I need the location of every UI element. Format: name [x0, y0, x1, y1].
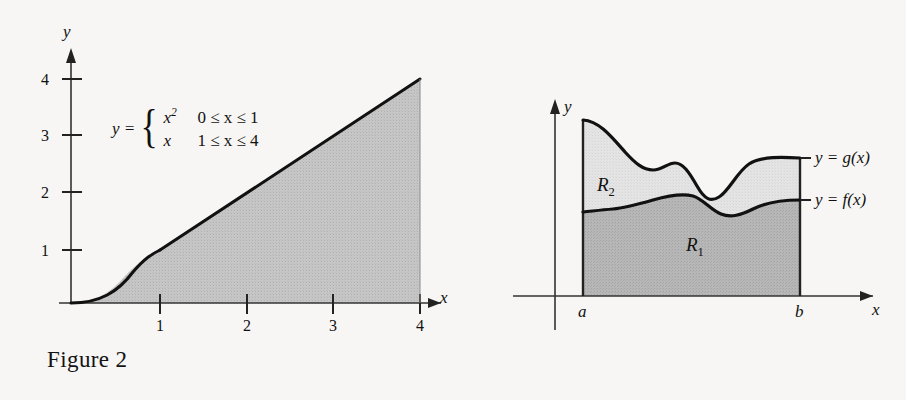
figure-2-y-tick-label-4: 4: [35, 71, 55, 89]
figure-page: y x 1 2 3 4 1 2 3 4 y = { x2 0 ≤ x ≤ 1 x…: [0, 0, 906, 400]
figure-3-region-label-r1: R1: [686, 234, 704, 260]
region-r1-subscript: 1: [698, 245, 704, 259]
figure-3-x-axis-label: x: [872, 300, 880, 320]
figure-2-panel: y x 1 2 3 4 1 2 3 4 y = { x2 0 ≤ x ≤ 1 x…: [0, 0, 453, 400]
equation-lead: y =: [112, 119, 135, 139]
figure-3-curve-label-f: y = f(x): [815, 190, 866, 210]
equation-case-row: x 1 ≤ x ≤ 4: [163, 129, 258, 152]
equation-case-domain: 1 ≤ x ≤ 4: [193, 131, 258, 151]
figure-2-x-axis-label: x: [440, 288, 448, 308]
case-1-exponent: 2: [171, 106, 177, 119]
figure-3-y-axis-arrow: [550, 99, 560, 114]
region-r1-letter: R: [686, 234, 698, 255]
equation-case-row: x2 0 ≤ x ≤ 1: [163, 106, 258, 129]
figure-2-x-tick-label-3: 3: [323, 317, 343, 335]
f-label-lead: y =: [815, 190, 838, 209]
figure-3-region-label-r2: R2: [597, 174, 615, 200]
figure-2-y-tick-label-3: 3: [35, 127, 55, 145]
figure-2-piecewise-equation: y = { x2 0 ≤ x ≤ 1 x 1 ≤ x ≤ 4: [112, 106, 259, 152]
g-label-arg: (x): [851, 148, 870, 167]
case-1-base: x: [163, 108, 171, 127]
case-2-base: x: [163, 131, 171, 150]
equation-case-function: x2: [163, 106, 193, 128]
g-label-lead: y =: [815, 148, 838, 167]
equation-cases: x2 0 ≤ x ≤ 1 x 1 ≤ x ≤ 4: [163, 106, 258, 152]
figure-2-y-axis-arrow: [66, 48, 76, 63]
region-r2-letter: R: [597, 174, 609, 195]
equation-case-domain: 0 ≤ x ≤ 1: [193, 108, 258, 128]
figure-3-y-axis-label: y: [564, 97, 572, 117]
f-label-arg: (x): [847, 190, 866, 209]
figure-2-y-tick-label-2: 2: [35, 184, 55, 202]
figure-3-curve-label-g: y = g(x): [815, 148, 870, 168]
figure-2-x-tick-label-1: 1: [150, 317, 170, 335]
figure-2-graphic: [0, 0, 453, 400]
figure-2-x-tick-label-4: 4: [410, 317, 430, 335]
equation-case-function: x: [163, 129, 193, 151]
figure-2-y-axis-label: y: [63, 22, 71, 42]
figure-3-panel: y x a b R2 R1 y = g(x) y = f(x) Figure 3: [453, 0, 906, 400]
figure-3-x-tick-label-a: a: [578, 302, 587, 322]
g-label-function: g: [843, 148, 852, 167]
figure-2-x-tick-label-2: 2: [237, 317, 257, 335]
figure-2-y-tick-label-1: 1: [35, 242, 55, 260]
figure-3-x-tick-label-b: b: [795, 302, 804, 322]
figure-2-caption: Figure 2: [47, 347, 128, 373]
region-r2-subscript: 2: [609, 185, 615, 199]
equation-brace: {: [141, 109, 158, 146]
